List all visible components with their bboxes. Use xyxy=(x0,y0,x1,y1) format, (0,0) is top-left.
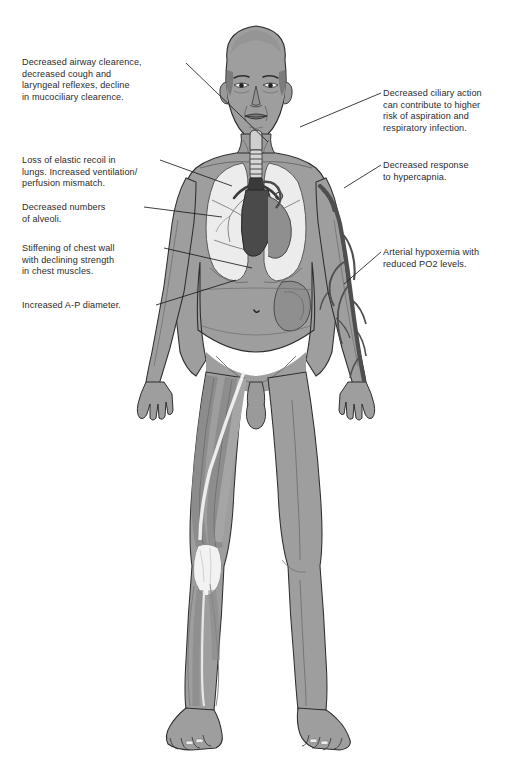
head xyxy=(220,26,292,141)
diagram-canvas: Decreased airway clearence, decreased co… xyxy=(0,0,512,776)
leader-hypercapnia xyxy=(344,165,381,188)
annotation-chest-wall: Stiffening of chest wall with declining … xyxy=(22,243,170,278)
leader-ciliary-action xyxy=(300,93,381,127)
right-leg xyxy=(166,372,244,750)
annotation-elastic-recoil: Loss of elastic recoil in lungs. Increas… xyxy=(22,155,188,190)
annotation-ciliary-action: Decreased ciliary action can contribute … xyxy=(383,88,507,134)
leader-arterial xyxy=(344,252,381,284)
annotation-alveoli: Decreased numbers of alveoli. xyxy=(22,202,172,225)
left-leg xyxy=(268,372,350,750)
annotation-arterial-hypoxemia: Arterial hypoxemia with reduced PO2 leve… xyxy=(383,247,509,270)
body-outline xyxy=(137,26,374,750)
annotation-ap-diameter: Increased A-P diameter. xyxy=(22,300,174,312)
genitals xyxy=(246,382,265,429)
annotation-hypercapnia: Decreased response to hypercapnia. xyxy=(383,160,505,183)
annotation-airway-clearance: Decreased airway clearence, decreased co… xyxy=(22,57,190,103)
